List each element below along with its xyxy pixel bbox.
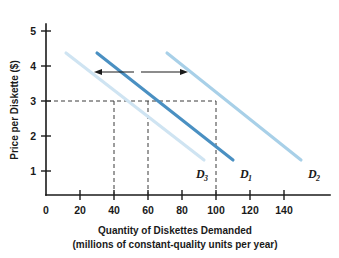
curve-label-d3-sub: 3 xyxy=(203,174,208,183)
x-tick-label-140: 140 xyxy=(275,204,293,216)
y-tick-label-4: 4 xyxy=(30,60,36,72)
y-tick-label-5: 5 xyxy=(30,25,36,37)
guide-line-group xyxy=(47,101,216,194)
curve-label-group: D 3 D 1 D 2 xyxy=(195,167,320,183)
demand-curve-d2 xyxy=(167,53,301,160)
demand-curve-d1 xyxy=(97,53,233,160)
x-axis-title-line2: (millions of constant-quality units per … xyxy=(72,239,277,250)
axis-group xyxy=(46,24,330,195)
x-tick-label-20: 20 xyxy=(74,204,86,216)
x-axis-title-line1: Quantity of Diskettes Demanded xyxy=(98,225,252,236)
x-tick-label-120: 120 xyxy=(241,204,259,216)
curve-label-d1-sub: 1 xyxy=(248,174,252,183)
curve-label-d2-sub: 2 xyxy=(315,174,320,183)
x-tick-label-100: 100 xyxy=(207,204,225,216)
x-tick-group: 0 20 40 60 80 100 120 140 xyxy=(43,190,293,216)
x-tick-label-0: 0 xyxy=(43,204,49,216)
demand-curve-group xyxy=(66,53,301,160)
demand-shift-chart: 5 4 3 2 1 0 20 40 60 80 100 120 140 xyxy=(0,0,339,258)
y-axis-title: Price per Diskette ($) xyxy=(9,60,20,160)
y-tick-label-2: 2 xyxy=(30,130,36,142)
x-tick-label-60: 60 xyxy=(142,204,154,216)
x-tick-label-80: 80 xyxy=(176,204,188,216)
y-tick-label-3: 3 xyxy=(30,95,36,107)
shift-arrow-group xyxy=(94,69,188,75)
x-tick-label-40: 40 xyxy=(108,204,120,216)
y-tick-label-1: 1 xyxy=(30,165,36,177)
demand-curve-d3 xyxy=(66,53,204,160)
chart-svg: 5 4 3 2 1 0 20 40 60 80 100 120 140 xyxy=(0,0,339,258)
